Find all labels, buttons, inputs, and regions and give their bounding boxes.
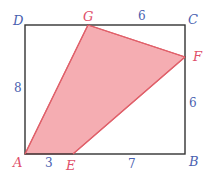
vertex-label-g: G [83, 9, 93, 24]
length-ad: 8 [14, 81, 22, 95]
vertex-label-e: E [65, 158, 76, 173]
vertex-label-c: C [188, 12, 198, 27]
length-gc: 6 [138, 9, 146, 23]
vertex-label-b: B [188, 154, 199, 169]
shaded-quadrilateral-aefg [25, 25, 185, 154]
vertex-label-f: F [192, 49, 203, 64]
geometry-figure: D G C F A E B 8 6 6 3 7 [0, 0, 214, 181]
length-fb: 6 [189, 96, 197, 110]
vertex-label-a: A [12, 155, 22, 170]
length-ae: 3 [45, 156, 53, 170]
vertex-label-d: D [12, 13, 24, 28]
length-eb: 7 [128, 157, 136, 171]
